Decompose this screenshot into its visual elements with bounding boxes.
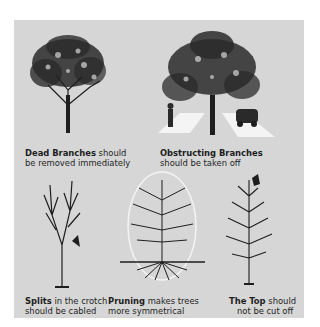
caption-text: not be cut off (229, 306, 293, 316)
caption-text: be removed immediately (25, 158, 130, 168)
caption-pruning: Pruning makes treesmore symmetrical (108, 296, 199, 316)
caption-title: The Top (229, 296, 266, 306)
caption-text: should (266, 296, 296, 306)
caption-title: Obstructing Branches (160, 148, 263, 158)
full-leafy-tree-icon (18, 25, 118, 137)
caption-text: should (96, 148, 126, 158)
caption-obstructing-branches: Obstructing Branchesshould be taken off (160, 148, 263, 168)
caption-dead-branches: Dead Branches shouldbe removed immediate… (25, 148, 130, 168)
caption-text: should be cabled (25, 306, 96, 316)
caption-title: Dead Branches (25, 148, 96, 158)
caption-splits: Splits in the crotchshould be cabled (25, 296, 107, 316)
pruned-tree-with-roots-oval-icon (115, 170, 210, 285)
caption-title: Splits (25, 296, 52, 306)
caption-the-top: The Top shouldnot be cut off (229, 296, 296, 316)
caption-text: in the crotch (52, 296, 108, 306)
caption-text: more symmetrical (108, 306, 184, 316)
caption-text: should be taken off (160, 158, 241, 168)
caption-title: Pruning (108, 296, 145, 306)
bare-split-tree-icon (40, 175, 85, 290)
young-tree-with-top-icon (222, 172, 277, 287)
tree-over-sidewalk-and-road-icon (150, 25, 280, 140)
caption-text: makes trees (145, 296, 199, 306)
